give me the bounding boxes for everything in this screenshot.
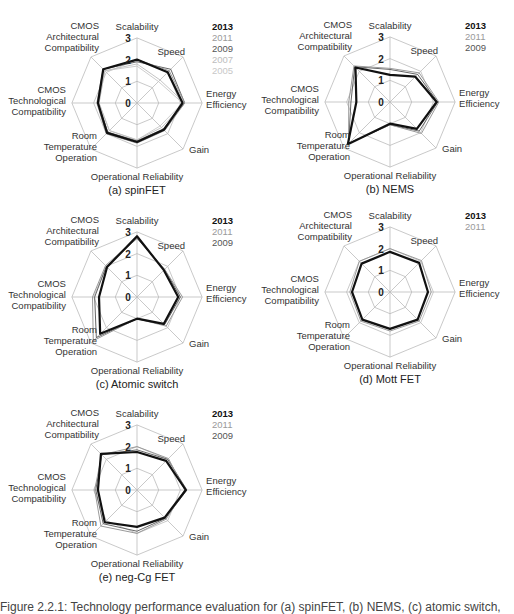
axis-label: EnergyEfficiency — [206, 88, 247, 110]
axis-label: RoomTemperatureOperation — [44, 130, 97, 163]
radar-chart-b: 0123ScalabilitySpeedEnergyEfficiencyGain… — [261, 19, 500, 195]
tick-label: 2 — [125, 442, 131, 453]
chart-caption: (c) Atomic switch — [96, 378, 179, 390]
axis-spoke — [91, 103, 137, 149]
tick-label: 3 — [125, 227, 131, 238]
axis-label: Gain — [189, 531, 209, 542]
axis-label: Scalability — [116, 21, 159, 32]
axis-label: Operational Reliability — [91, 365, 184, 376]
axis-label: CMOSTechnologicalCompatibility — [8, 471, 66, 504]
tick-label: 1 — [125, 76, 131, 87]
legend-entry: 2011 — [212, 226, 232, 237]
axis-label: Operational Reliability — [91, 171, 184, 182]
axis-label: CMOSTechnologicalCompatibility — [8, 278, 66, 311]
legend-entry: 2009 — [465, 42, 486, 53]
tick-label: 2 — [125, 249, 131, 260]
tick-label: 3 — [125, 33, 131, 44]
axis-label: Gain — [442, 333, 462, 344]
tick-label: 0 — [125, 98, 131, 109]
axis-label: EnergyEfficiency — [206, 475, 247, 497]
legend-entry: 2007 — [212, 54, 233, 65]
radar-chart-a: 0123ScalabilitySpeedEnergyEfficiencyGain… — [8, 20, 247, 196]
axis-label: Speed — [411, 235, 438, 246]
tick-label: 1 — [378, 265, 384, 276]
tick-label: 2 — [378, 54, 384, 65]
legend-entry: 2009 — [212, 43, 233, 54]
legend-entry: 2011 — [465, 221, 485, 232]
axis-label: RoomTemperatureOperation — [297, 319, 350, 352]
axis-label: CMOSTechnologicalCompatibility — [8, 84, 66, 117]
tick-label: 3 — [378, 222, 384, 233]
legend-entry: 2013 — [465, 20, 486, 31]
axis-label: Speed — [411, 45, 438, 56]
axis-label: CMOSTechnologicalCompatibility — [261, 83, 319, 116]
axis-label: Operational Reliability — [344, 360, 437, 371]
axis-label: Operational Reliability — [344, 170, 437, 181]
axis-label: Speed — [158, 433, 185, 444]
axis-label: Scalability — [116, 215, 159, 226]
legend-entry: 2005 — [212, 65, 233, 76]
axis-label: Gain — [442, 143, 462, 154]
axis-spoke — [137, 490, 183, 536]
legend-entry: 2013 — [465, 210, 486, 221]
tick-label: 0 — [378, 97, 384, 108]
legend-entry: 2009 — [212, 430, 233, 441]
tick-label: 0 — [125, 292, 131, 303]
axis-label: RoomTemperatureOperation — [44, 517, 97, 550]
legend-entry: 2013 — [212, 215, 233, 226]
legend-entry: 2011 — [465, 31, 485, 42]
axis-label: CMOSArchitecturalCompatibility — [45, 20, 100, 53]
axis-label: Scalability — [369, 20, 412, 31]
tick-label: 1 — [125, 270, 131, 281]
tick-label: 2 — [125, 55, 131, 66]
legend-entry: 2013 — [212, 408, 233, 419]
chart-caption: (b) NEMS — [366, 183, 414, 195]
chart-caption: (a) spinFET — [108, 184, 166, 196]
axis-label: Speed — [158, 240, 185, 251]
axis-spoke — [91, 297, 137, 343]
tick-label: 3 — [378, 32, 384, 43]
axis-label: CMOSArchitecturalCompatibility — [298, 209, 353, 242]
axis-spoke — [390, 292, 436, 338]
tick-label: 3 — [125, 420, 131, 431]
figure-caption: Figure 2.2.1: Technology performance eva… — [0, 600, 514, 614]
chart-caption: (e) neg-Cg FET — [99, 571, 176, 583]
legend-entry: 2013 — [212, 21, 233, 32]
tick-label: 0 — [378, 287, 384, 298]
legend-entry: 2009 — [212, 237, 233, 248]
radar-chart-e: 0123ScalabilitySpeedEnergyEfficiencyGain… — [8, 407, 247, 583]
axis-label: CMOSArchitecturalCompatibility — [45, 214, 100, 247]
axis-label: Gain — [189, 144, 209, 155]
axis-label: Speed — [158, 46, 185, 57]
radar-chart-d: 0123ScalabilitySpeedEnergyEfficiencyGain… — [261, 209, 500, 385]
axis-label: CMOSArchitecturalCompatibility — [45, 407, 100, 440]
axis-spoke — [344, 292, 390, 338]
series-2011 — [349, 66, 439, 143]
axis-label: EnergyEfficiency — [459, 277, 500, 299]
chart-caption: (d) Mott FET — [359, 373, 421, 385]
axis-label: EnergyEfficiency — [206, 282, 247, 304]
tick-label: 0 — [125, 485, 131, 496]
axis-label: CMOSTechnologicalCompatibility — [261, 273, 319, 306]
axis-spoke — [137, 444, 183, 490]
axis-label: Scalability — [369, 210, 412, 221]
axis-label: Scalability — [116, 408, 159, 419]
axis-label: EnergyEfficiency — [459, 87, 500, 109]
tick-label: 2 — [378, 244, 384, 255]
axis-label: CMOSArchitecturalCompatibility — [298, 19, 353, 52]
legend-entry: 2011 — [212, 419, 232, 430]
tick-label: 1 — [125, 463, 131, 474]
axis-label: Gain — [189, 338, 209, 349]
axis-label: RoomTemperatureOperation — [44, 324, 97, 357]
axis-label: RoomTemperatureOperation — [297, 129, 350, 162]
legend-entry: 2011 — [212, 32, 232, 43]
axis-spoke — [390, 56, 436, 102]
tick-label: 1 — [378, 75, 384, 86]
radar-chart-c: 0123ScalabilitySpeedEnergyEfficiencyGain… — [8, 214, 247, 390]
axis-label: Operational Reliability — [91, 558, 184, 569]
